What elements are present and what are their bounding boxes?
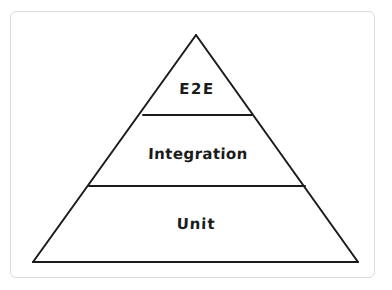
tier-label-integration: Integration xyxy=(148,145,248,163)
diagram-canvas: E2E Integration Unit xyxy=(0,0,392,290)
tier-label-e2e: E2E xyxy=(179,80,215,98)
tier-label-unit: Unit xyxy=(176,215,215,233)
